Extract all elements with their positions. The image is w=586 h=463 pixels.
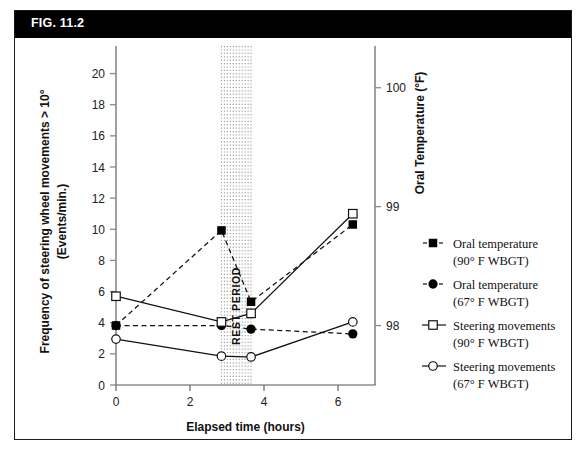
y-ticklabel-left: 20 — [92, 67, 106, 81]
legend-label-line1: Steering movements — [453, 360, 556, 374]
legend-item-0[interactable]: Oral temperature(90° F WBGT) — [423, 237, 538, 269]
marker-filled-square — [217, 226, 226, 235]
marker-open-square — [247, 309, 256, 318]
y-ticklabel-left: 12 — [92, 192, 106, 206]
marker-filled-circle — [348, 329, 357, 338]
marker-filled-square — [247, 298, 256, 307]
legend: Oral temperature(90° F WBGT)Oral tempera… — [422, 237, 556, 392]
y-ticklabel-right: 100 — [386, 81, 406, 95]
x-ticklabel: 2 — [187, 395, 194, 409]
legend-label-line2: (90° F WBGT) — [453, 336, 529, 350]
y-ticklabel-left: 16 — [92, 129, 106, 143]
legend-item-2[interactable]: Steering movements(90° F WBGT) — [422, 319, 556, 351]
legend-label-line1: Oral temperature — [453, 278, 538, 292]
y-ticklabel-right: 98 — [386, 319, 400, 333]
legend-item-3[interactable]: Steering movements(67° F WBGT) — [422, 360, 556, 392]
marker-open-square — [429, 321, 438, 330]
legend-label-line1: Steering movements — [453, 319, 556, 333]
x-ticklabel: 6 — [335, 395, 342, 409]
x-axis-title: Elapsed time (hours) — [186, 420, 305, 434]
legend-label-line1: Oral temperature — [453, 237, 538, 251]
figure-title-bar: FIG. 11.2 — [15, 11, 571, 38]
legend-label-line2: (67° F WBGT) — [453, 295, 529, 309]
marker-open-square — [349, 209, 358, 218]
chart-svg: REST PERIOD0246810121416182098991000246F… — [15, 38, 573, 441]
figure-title: FIG. 11.2 — [31, 16, 84, 30]
y-ticklabel-left: 4 — [98, 316, 105, 330]
y-ticklabel-left: 0 — [98, 379, 105, 393]
y-ticklabel-left: 2 — [98, 347, 105, 361]
marker-open-circle — [247, 353, 256, 362]
x-ticklabel: 0 — [113, 395, 120, 409]
marker-filled-circle — [111, 321, 120, 330]
marker-open-square — [217, 318, 226, 327]
figure-container: FIG. 11.2 REST PERIOD0246810121416182098… — [14, 10, 572, 440]
marker-open-circle — [112, 335, 121, 344]
legend-label-line2: (67° F WBGT) — [453, 377, 529, 391]
x-ticklabel: 4 — [261, 395, 268, 409]
legend-label-line2: (90° F WBGT) — [453, 254, 529, 268]
marker-filled-circle — [246, 324, 255, 333]
marker-filled-square — [429, 239, 438, 248]
y-ticklabel-left: 10 — [92, 223, 106, 237]
y-ticklabel-left: 6 — [98, 285, 105, 299]
plot-area: REST PERIOD0246810121416182098991000246F… — [15, 38, 571, 441]
y-axis-title-units: (Events/min.) — [55, 184, 69, 259]
rest-period-label: REST PERIOD — [230, 267, 242, 345]
y-ticklabel-left: 14 — [92, 161, 106, 175]
marker-open-circle — [217, 352, 226, 361]
marker-open-circle — [349, 318, 358, 327]
y-ticklabel-right: 99 — [386, 200, 400, 214]
y-ticklabel-left: 8 — [98, 254, 105, 268]
marker-filled-square — [349, 220, 358, 229]
y-ticklabel-left: 18 — [92, 98, 106, 112]
marker-open-square — [112, 292, 121, 301]
marker-open-circle — [429, 362, 438, 371]
y2-axis-title: Oral Temperature (°F) — [413, 72, 427, 195]
legend-item-1[interactable]: Oral temperature(67° F WBGT) — [423, 278, 538, 310]
marker-filled-circle — [428, 279, 437, 288]
y-axis-title: Frequency of steering wheel movements > … — [38, 89, 52, 353]
